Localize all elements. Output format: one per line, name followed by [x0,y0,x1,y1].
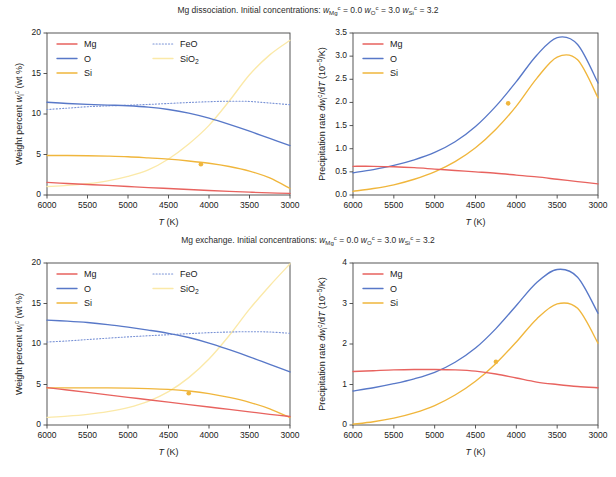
legend-label-Mg: Mg [390,269,403,279]
figure-root: MgOSiFeOSiO26000550050004500400035003000… [0,0,616,477]
y-tick-label: 1 [309,379,347,389]
series-marker-Si [494,360,499,365]
y-tick-label: 3 [309,298,347,308]
x-tick-label: 4500 [454,430,498,440]
panel-title: Mg exchange. Initial concentrations: wMg… [0,234,616,245]
legend-label-O: O [390,284,397,294]
legend-label-Si: Si [390,298,398,308]
x-tick-label: 3500 [535,430,579,440]
y-tick-label: 2 [309,338,347,348]
y-tick-label: 4 [309,257,347,267]
x-tick-label: 4000 [494,430,538,440]
y-tick-label: 0 [309,419,347,429]
panel-title: Mg dissociation. Initial concentrations:… [0,4,616,15]
y-axis-label: Precipitation rate dwic/dT (10−5/K) [316,263,328,425]
x-tick-label: 6000 [331,430,375,440]
series-line-Si [353,303,598,424]
x-axis-label: T (K) [353,447,598,457]
x-tick-label: 5000 [413,430,457,440]
x-tick-label: 3000 [576,430,616,440]
x-tick-label: 5500 [372,430,416,440]
